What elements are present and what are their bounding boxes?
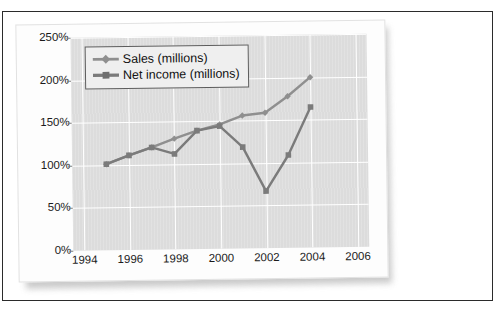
x-axis-tick-label: 1996: [105, 254, 155, 266]
data-point-marker: [286, 152, 292, 158]
y-axis-tick-label: 200%: [21, 74, 69, 86]
x-axis-tick-label: 2002: [242, 252, 292, 264]
legend-key-net-income-square-icon: [92, 68, 120, 82]
y-axis-tick-label: 50%: [23, 202, 71, 214]
data-point-marker: [217, 123, 223, 129]
series-line: [105, 77, 311, 164]
data-point-marker: [103, 161, 109, 167]
y-axis-tick: [68, 123, 72, 124]
y-axis-tick-label: 100%: [22, 160, 70, 172]
data-point-marker: [194, 128, 200, 134]
legend-label-net-income: Net income (millions): [123, 67, 240, 81]
x-axis-tick-label: 1994: [60, 254, 110, 266]
x-axis-tick-label: 2006: [333, 251, 383, 263]
chart-card: 0%50%100%150%200%250% 199419961998200020…: [15, 20, 388, 283]
y-axis-tick: [67, 80, 71, 81]
x-axis-tick-label: 1998: [151, 253, 201, 265]
y-axis-tick-label: 150%: [22, 117, 70, 129]
x-axis-tick-label: 2000: [196, 252, 246, 264]
legend-key-sales-diamond-icon: [92, 52, 120, 66]
y-axis-tick-label: 250%: [20, 32, 68, 44]
data-point-marker: [126, 153, 132, 159]
y-axis-tick: [69, 251, 73, 252]
data-point-marker: [308, 104, 314, 110]
chart-figure: 0%50%100%150%200%250% 199419961998200020…: [16, 21, 389, 284]
y-axis-tick: [69, 208, 73, 209]
data-point-marker: [172, 151, 178, 157]
x-axis-tick-label: 2004: [287, 251, 337, 263]
series-line: [106, 107, 312, 193]
legend-item-net-income: Net income (millions): [92, 66, 240, 84]
data-point-marker: [171, 135, 177, 141]
data-point-marker: [239, 112, 245, 118]
data-point-marker: [240, 144, 246, 150]
data-point-marker: [149, 145, 155, 151]
data-point-marker: [263, 188, 269, 194]
y-axis-tick: [68, 165, 72, 166]
legend-label-sales: Sales (millions): [123, 52, 208, 66]
legend-item-sales: Sales (millions): [92, 50, 240, 68]
scanned-page: 0%50%100%150%200%250% 199419961998200020…: [0, 0, 499, 316]
chart-legend: Sales (millions) Net income (millions): [85, 44, 249, 89]
y-axis-tick: [67, 38, 71, 39]
